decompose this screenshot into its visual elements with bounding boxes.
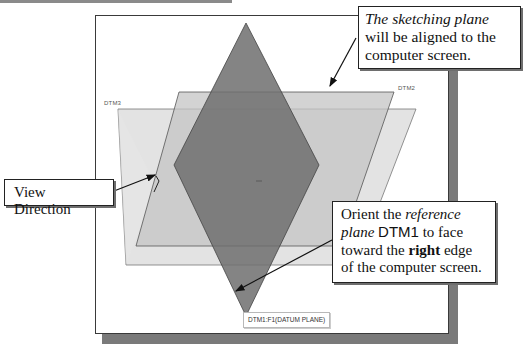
- top-shadow-strip: [0, 0, 232, 3]
- reference-plane-callout: Orient the reference plane DTM1 to face …: [332, 201, 496, 283]
- sketching-plane-text: will be aligned to the computer screen.: [365, 28, 496, 63]
- view-direction-callout: View Direction: [4, 179, 114, 206]
- ref-text-1: Orient the: [341, 206, 405, 222]
- sketching-plane-italic: The sketching plane: [365, 10, 489, 27]
- dtm2-label: DTM2: [398, 85, 415, 91]
- dtm3-label: DTM3: [104, 100, 121, 106]
- ref-dtm1: DTM1: [378, 223, 419, 240]
- dtm1-plane[interactable]: [174, 23, 319, 316]
- ref-bold-right: right: [408, 242, 440, 258]
- datum-plane-tooltip: DTM1:F1(DATUM PLANE): [243, 312, 330, 328]
- view-direction-text: View Direction: [14, 184, 71, 217]
- sketching-plane-callout: The sketching plane will be aligned to t…: [358, 6, 521, 69]
